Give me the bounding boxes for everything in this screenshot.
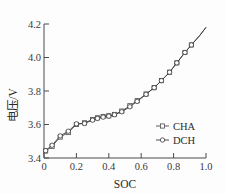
data-point-circle [120,110,124,114]
legend-label: DCH [173,135,196,146]
y-tick-label: 3.6 [28,119,41,130]
x-tick-label: 0.4 [102,161,116,172]
legend-item-cha: CHA [156,121,196,132]
data-point-circle [183,50,187,54]
data-point-circle [58,134,62,138]
chart-legend: CHADCH [156,121,196,146]
data-point-circle [43,148,47,152]
data-point-circle [152,85,156,89]
legend-item-dch: DCH [156,135,196,146]
legend-label: CHA [173,121,196,132]
data-point-circle [112,113,116,117]
y-tick-label: 4.0 [28,52,41,63]
data-point-circle [189,43,193,47]
voltage-vs-soc-chart: 3.43.63.84.04.2 00.20.40.60.81.0 电压/V SO… [0,0,225,194]
y-tick-label: 3.4 [28,153,42,164]
x-tick-label: 0.8 [167,161,180,172]
x-tick-label: 0 [41,161,46,172]
data-point-circle [167,70,171,74]
data-point-circle [66,129,70,133]
data-point-circle [107,114,111,118]
x-tick-label: 0.6 [135,161,148,172]
data-point-circle [128,105,132,109]
data-point-circle [95,116,99,120]
data-point-circle [90,118,94,122]
x-axis-title: SOC [114,178,137,190]
y-axis-ticks: 3.43.63.84.04.2 [28,19,49,164]
data-point-circle [50,143,54,147]
y-axis-title-group: 电压/V [7,88,19,122]
data-point-circle [175,61,179,65]
data-point-circle [101,115,105,119]
y-tick-label: 4.2 [28,19,41,30]
data-point-circle [82,121,86,125]
y-tick-label: 3.8 [28,86,41,97]
chart-figure: 3.43.63.84.04.2 00.20.40.60.81.0 电压/V SO… [0,0,225,194]
data-point-circle [144,92,148,96]
x-tick-label: 0.2 [70,161,83,172]
x-axis-ticks: 00.20.40.60.81.0 [41,153,212,172]
x-tick-label: 1.0 [199,161,212,172]
square-marker-icon [160,124,164,128]
data-point-circle [74,122,78,126]
circle-marker-icon [160,138,164,142]
y-axis-title: 电压/V [7,88,19,122]
data-point-circle [159,78,163,82]
data-point-circle [135,99,139,103]
